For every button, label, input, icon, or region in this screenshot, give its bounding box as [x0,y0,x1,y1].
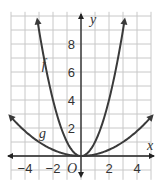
axes [7,13,155,178]
svg-text:2: 2 [68,121,75,136]
svg-text:6: 6 [68,65,75,80]
svg-text:2: 2 [105,161,112,176]
svg-text:−4: −4 [18,161,33,176]
svg-text:y: y [88,12,97,27]
svg-text:8: 8 [68,37,75,52]
svg-text:g: g [39,126,46,141]
parabola-chart: −4−2242468Oxyfg [0,0,160,181]
svg-text:4: 4 [68,93,75,108]
svg-text:4: 4 [133,161,140,176]
svg-text:x: x [146,138,154,153]
svg-text:−2: −2 [46,161,61,176]
labels: −4−2242468Oxyfg [18,12,154,176]
svg-text:O: O [67,161,77,176]
